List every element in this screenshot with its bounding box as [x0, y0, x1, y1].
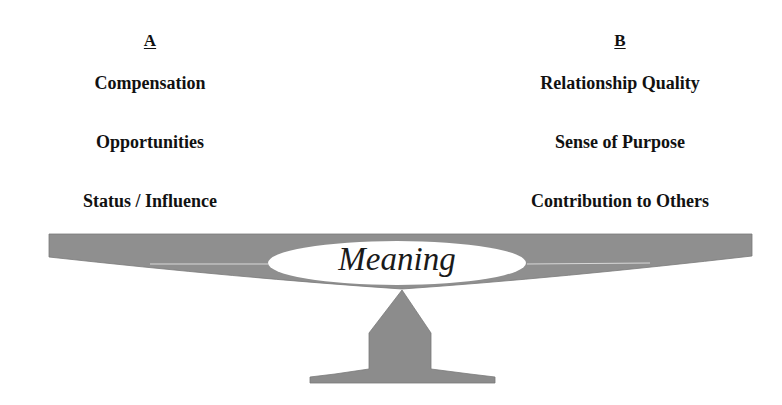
- center-label-meaning: Meaning: [297, 241, 497, 278]
- balance-scale-graphic: [0, 0, 782, 405]
- fulcrum: [310, 290, 495, 383]
